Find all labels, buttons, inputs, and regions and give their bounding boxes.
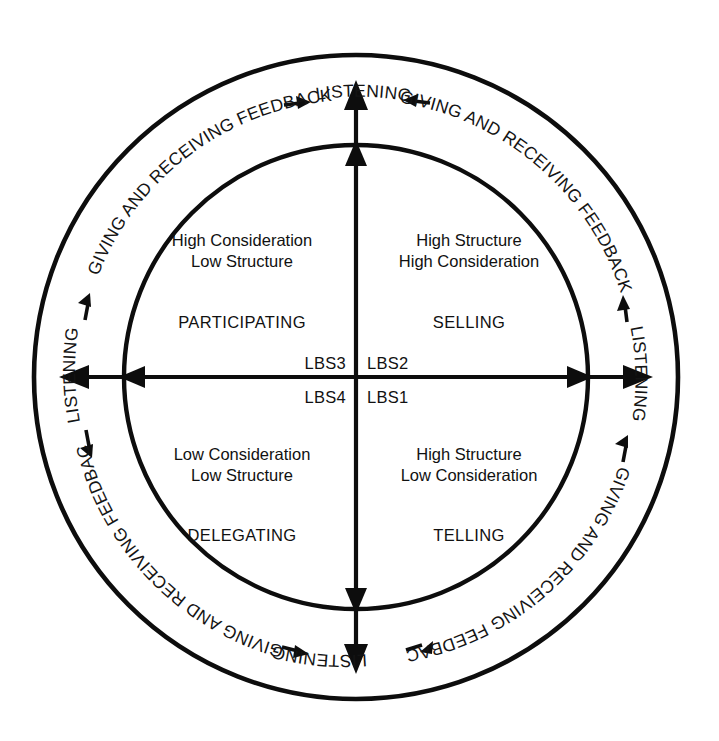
quadrant-bottom-left-line1: Low Consideration xyxy=(174,445,311,463)
quadrant-top-left: High Consideration Low Structure PARTICI… xyxy=(172,231,346,372)
quadrant-bottom-left-code: LBS4 xyxy=(304,388,346,406)
ring-connector-arrow-right-lower xyxy=(615,435,628,462)
quadrant-bottom-right-code: LBS1 xyxy=(367,388,409,406)
leadership-circle-diagram: GIVING AND RECEIVING FEEDBACK LISTENING … xyxy=(0,0,719,741)
quadrant-bottom-right-style: TELLING xyxy=(433,526,505,544)
quadrant-top-right: High Structure High Consideration SELLIN… xyxy=(367,231,539,372)
diagram-canvas: GIVING AND RECEIVING FEEDBACK LISTENING … xyxy=(0,0,719,741)
quadrant-bottom-right: LBS1 High Structure Low Consideration TE… xyxy=(367,388,537,544)
quadrant-top-right-code: LBS2 xyxy=(367,354,409,372)
quadrant-bottom-left: LBS4 Low Consideration Low Structure DEL… xyxy=(174,388,346,544)
quadrant-bottom-left-style: DELEGATING xyxy=(187,526,296,544)
quadrant-bottom-left-line2: Low Structure xyxy=(191,466,293,484)
quadrant-top-left-code: LBS3 xyxy=(304,354,346,372)
quadrant-bottom-right-line1: High Structure xyxy=(416,445,521,463)
quadrant-top-left-style: PARTICIPATING xyxy=(178,313,306,331)
quadrant-top-right-line2: High Consideration xyxy=(399,252,539,270)
quadrant-top-right-line1: High Structure xyxy=(416,231,521,249)
quadrant-top-left-line2: Low Structure xyxy=(191,252,293,270)
quadrant-bottom-right-line2: Low Consideration xyxy=(401,466,538,484)
ring-connector-arrow-left-upper xyxy=(78,293,91,320)
ring-connector-arrow-right-upper xyxy=(617,295,630,322)
quadrant-top-right-style: SELLING xyxy=(433,313,506,331)
quadrant-top-left-line1: High Consideration xyxy=(172,231,312,249)
